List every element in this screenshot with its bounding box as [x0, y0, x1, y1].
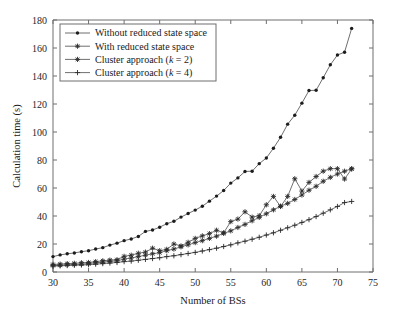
- data-point-marker: [80, 250, 83, 253]
- x-tick-label: 30: [48, 277, 58, 288]
- data-point-marker: [349, 166, 354, 171]
- data-point-marker: [228, 228, 233, 233]
- data-point-marker: [264, 202, 269, 207]
- legend-group[interactable]: Without reduced state spaceWith reduced …: [60, 24, 216, 81]
- data-point-marker: [76, 31, 79, 34]
- data-point-marker: [265, 156, 268, 159]
- data-point-marker: [350, 27, 353, 30]
- x-tick-label: 55: [226, 277, 236, 288]
- x-tick-label: 65: [297, 277, 307, 288]
- data-point-marker: [293, 114, 296, 117]
- data-point-marker: [335, 166, 340, 171]
- legend-item-label: Without reduced state space: [95, 27, 208, 38]
- data-point-marker: [229, 181, 232, 184]
- data-point-marker: [329, 63, 332, 66]
- data-point-marker: [271, 194, 276, 199]
- data-point-marker: [194, 208, 197, 211]
- data-point-marker: [250, 218, 255, 223]
- y-tick-label: 140: [32, 71, 47, 82]
- data-point-marker: [207, 231, 212, 236]
- data-point-marker: [115, 241, 118, 244]
- data-point-marker: [235, 216, 240, 221]
- legend-item-label: With reduced state space: [95, 41, 195, 52]
- x-tick-label: 35: [84, 277, 94, 288]
- data-point-marker: [75, 57, 80, 62]
- x-tick-label: 60: [261, 277, 271, 288]
- data-point-marker: [299, 192, 304, 197]
- data-point-marker: [207, 236, 212, 241]
- x-tick-label: 70: [332, 277, 342, 288]
- data-point-marker: [250, 170, 253, 173]
- y-tick-label: 100: [32, 127, 47, 138]
- data-point-marker: [200, 238, 205, 243]
- data-point-marker: [328, 166, 333, 171]
- data-point-marker: [208, 199, 211, 202]
- data-point-marker: [122, 239, 125, 242]
- data-point-marker: [286, 122, 289, 125]
- data-point-marker: [242, 222, 247, 227]
- data-point-marker: [214, 228, 219, 233]
- data-point-marker: [94, 247, 97, 250]
- data-point-marker: [75, 44, 80, 49]
- data-point-marker: [235, 225, 240, 230]
- data-point-marker: [228, 219, 233, 224]
- data-point-marker: [279, 136, 282, 139]
- data-point-marker: [242, 209, 247, 214]
- data-point-marker: [292, 176, 297, 181]
- data-point-marker: [150, 251, 155, 256]
- calculation-time-line-chart: 3035404550556065707502040608010012014016…: [0, 0, 395, 319]
- data-point-marker: [144, 230, 147, 233]
- data-point-marker: [343, 51, 346, 54]
- data-point-marker: [314, 174, 319, 179]
- data-point-marker: [342, 169, 347, 174]
- data-point-marker: [157, 250, 162, 255]
- data-point-marker: [214, 234, 219, 239]
- y-tick-label: 180: [32, 15, 47, 26]
- data-point-marker: [300, 101, 303, 104]
- y-tick-label: 80: [37, 155, 47, 166]
- y-tick-label: 40: [37, 211, 47, 222]
- x-tick-label: 75: [368, 277, 378, 288]
- data-point-marker: [51, 255, 54, 258]
- data-point-marker: [258, 162, 261, 165]
- data-point-marker: [278, 204, 283, 209]
- data-point-marker: [292, 197, 297, 202]
- data-point-marker: [285, 194, 290, 199]
- data-point-marker: [101, 246, 104, 249]
- y-tick-label: 120: [32, 99, 47, 110]
- y-tick-label: 160: [32, 43, 47, 54]
- data-point-marker: [314, 89, 317, 92]
- data-point-marker: [285, 201, 290, 206]
- data-point-marker: [321, 169, 326, 174]
- data-point-marker: [222, 189, 225, 192]
- data-point-marker: [179, 215, 182, 218]
- y-tick-label: 20: [37, 239, 47, 250]
- data-point-marker: [87, 249, 90, 252]
- data-point-marker: [314, 184, 319, 189]
- data-point-marker: [172, 220, 175, 223]
- y-axis-title: Calculation time (s): [11, 104, 23, 188]
- data-point-marker: [243, 170, 246, 173]
- y-tick-label: 60: [37, 183, 47, 194]
- data-point-marker: [328, 175, 333, 180]
- data-point-marker: [58, 253, 61, 256]
- data-point-marker: [272, 147, 275, 150]
- data-point-marker: [335, 171, 340, 176]
- data-point-marker: [264, 211, 269, 216]
- data-point-marker: [201, 205, 204, 208]
- data-point-marker: [73, 251, 76, 254]
- data-point-marker: [186, 212, 189, 215]
- x-tick-label: 45: [155, 277, 165, 288]
- data-point-marker: [186, 242, 191, 247]
- data-point-marker: [193, 240, 198, 245]
- data-point-marker: [322, 76, 325, 79]
- data-point-marker: [336, 53, 339, 56]
- figure-container: 3035404550556065707502040608010012014016…: [0, 0, 395, 319]
- x-axis-title: Number of BSs: [180, 295, 245, 306]
- legend-item-label: Cluster approach (k = 2): [95, 54, 192, 66]
- data-point-marker: [271, 207, 276, 212]
- data-point-marker: [66, 252, 69, 255]
- data-point-marker: [215, 194, 218, 197]
- data-point-marker: [164, 248, 169, 253]
- y-tick-label: 0: [42, 267, 47, 278]
